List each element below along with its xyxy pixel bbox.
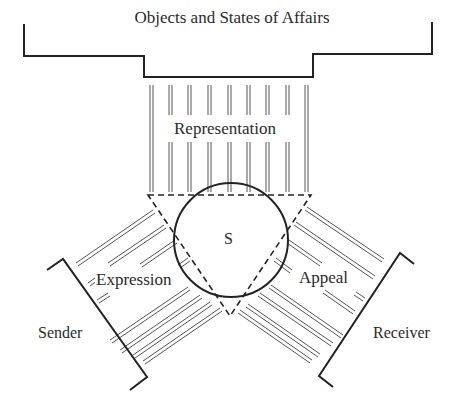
representation-label: Representation xyxy=(172,119,278,139)
expression-label: Expression xyxy=(95,270,173,290)
diagram-graphics xyxy=(0,0,464,416)
appeal-label: Appeal xyxy=(298,268,349,288)
sign-label: S xyxy=(224,230,233,248)
receiver-label: Receiver xyxy=(373,324,430,342)
sender-label: Sender xyxy=(38,324,82,342)
organon-diagram: Objects and States of Affairs Representa… xyxy=(0,0,464,416)
objects-bracket xyxy=(24,22,432,77)
objects-label: Objects and States of Affairs xyxy=(0,8,464,28)
